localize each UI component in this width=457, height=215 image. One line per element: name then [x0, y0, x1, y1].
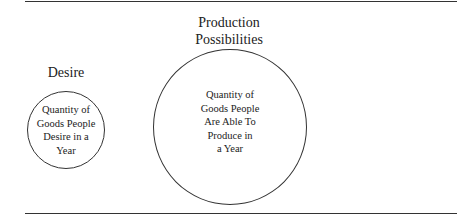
- top-rule: [25, 1, 457, 2]
- desire-circle: Quantity of Goods People Desire in a Yea…: [27, 91, 105, 169]
- bottom-rule: [25, 213, 457, 214]
- desire-title: Desire: [28, 64, 104, 81]
- production-circle-text: Quantity of Goods People Are Able To Pro…: [201, 88, 260, 156]
- desire-circle-text: Quantity of Goods People Desire in a Yea…: [37, 103, 96, 157]
- production-circle: Quantity of Goods People Are Able To Pro…: [153, 49, 307, 205]
- production-possibilities-title: Production Possibilities: [179, 14, 279, 48]
